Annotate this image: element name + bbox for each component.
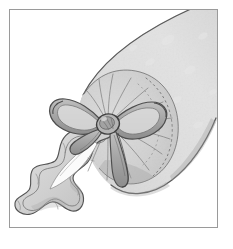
illustration-canvas: Wrapped cylindrical package tied with a … [0,0,233,249]
illustration-artwork [0,0,233,249]
